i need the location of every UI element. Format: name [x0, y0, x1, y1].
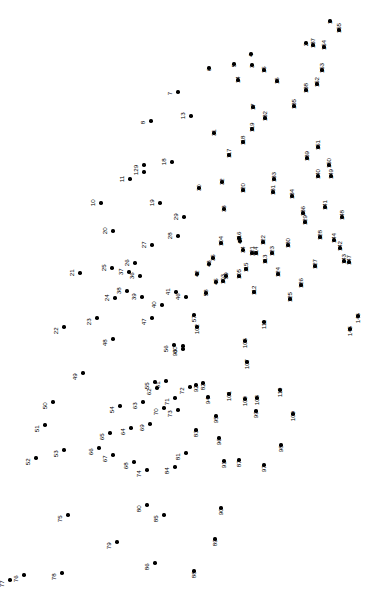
dot-number-label: 56 [163, 346, 169, 353]
dot-number-label: 63 [132, 403, 138, 410]
dot-number-label: 154 [321, 40, 327, 50]
puzzle-dot [138, 274, 141, 277]
dot-number-label: 67 [102, 456, 108, 463]
dot-number-label: 79 [106, 543, 112, 550]
dot-number-label: 86 [144, 564, 150, 571]
puzzle-dot [182, 215, 185, 218]
dot-number-label: 146 [355, 313, 361, 323]
dot-number-label: 142 [337, 241, 343, 251]
puzzle-dot [110, 266, 113, 269]
dot-number-label: 144 [331, 233, 337, 243]
dot-number-label: 131 [270, 185, 276, 195]
dot-number-label: 90 [218, 509, 224, 516]
puzzle-dot [62, 448, 65, 451]
dot-number-label: 126 [298, 278, 304, 288]
dot-number-label: 115 [243, 262, 249, 272]
connect-the-dots-canvas: 1234567891011121314151617181920212223242… [0, 0, 387, 613]
dot-number-label: 100 [242, 396, 248, 406]
puzzle-dot [78, 271, 81, 274]
dot-number-label: 69 [139, 425, 145, 432]
puzzle-dot [189, 114, 192, 117]
puzzle-dot [115, 540, 118, 543]
dot-number-label: 150 [326, 158, 332, 168]
dot-number-label: 147 [346, 255, 352, 265]
dot-number-label: 129 [302, 215, 308, 225]
dot-number-label: 1 [327, 21, 333, 24]
dot-number-label: 85 [153, 516, 159, 523]
dot-number-label: 141 [322, 200, 328, 210]
puzzle-dot [99, 201, 102, 204]
dot-number-label: 22 [53, 328, 59, 335]
dot-number-label: 95 [213, 417, 219, 424]
puzzle-dot [162, 513, 165, 516]
dot-number-label: 40 [151, 301, 157, 308]
dot-number-label: 37 [118, 268, 124, 275]
dot-number-label: 51 [34, 426, 40, 433]
puzzle-dot [176, 408, 179, 411]
dot-number-label: 107 [244, 359, 250, 369]
puzzle-dot [108, 431, 111, 434]
dot-number-label: 14 [235, 76, 241, 83]
puzzle-dot [164, 379, 167, 382]
dot-number-label: 138 [303, 83, 309, 93]
puzzle-dot [111, 229, 114, 232]
dot-number-label: 43 [206, 260, 212, 267]
puzzle-dot [111, 453, 114, 456]
puzzle-dot [62, 325, 65, 328]
puzzle-dot [184, 451, 187, 454]
dot-number-label: 76 [13, 576, 19, 583]
puzzle-dot [173, 396, 176, 399]
dot-number-label: 117 [226, 148, 232, 158]
dot-number-label: 92 [193, 386, 199, 393]
puzzle-dot [181, 347, 184, 350]
dot-number-label: 13 [180, 112, 186, 119]
puzzle-dot [142, 170, 145, 173]
puzzle-dot [8, 578, 11, 581]
puzzle-dot [97, 446, 100, 449]
puzzle-dot [145, 503, 148, 506]
dot-number-label: 11 [119, 176, 125, 182]
puzzle-dot [184, 295, 187, 298]
dot-number-label: 71 [164, 399, 170, 406]
dot-number-label: 82 [200, 384, 206, 391]
dot-number-label: 42 [194, 270, 200, 277]
dot-number-label: 81 [175, 454, 181, 461]
puzzle-dot [141, 400, 144, 403]
dot-number-label: 33 [221, 205, 227, 212]
dot-number-label: 93 [172, 350, 178, 357]
puzzle-dot [148, 422, 151, 425]
dot-number-label: 116 [236, 231, 242, 241]
dot-number-label: 19 [149, 199, 155, 206]
dot-number-label: 62 [146, 389, 152, 396]
dot-number-label: 4 [248, 54, 254, 57]
dot-number-label: 149 [328, 169, 334, 179]
dot-number-label: 65 [99, 434, 105, 441]
dot-number-label: 140 [315, 169, 321, 179]
dot-number-label: 106 [242, 338, 248, 348]
dot-number-label: 102 [194, 324, 200, 334]
dot-number-label: 119 [249, 122, 255, 132]
puzzle-dot [173, 465, 176, 468]
dot-number-label: 128 [317, 230, 323, 240]
dot-number-label: 38 [116, 287, 122, 294]
dot-number-label: 97 [261, 466, 267, 473]
dot-number-label: 75 [57, 516, 63, 523]
dot-number-label: 54 [109, 407, 115, 414]
dot-number-label: 98 [278, 446, 284, 453]
puzzle-dot [129, 426, 132, 429]
dot-number-label: 120 [240, 183, 246, 193]
dot-number-label: 7 [167, 92, 173, 95]
puzzle-dot [160, 303, 163, 306]
dot-number-label: 18 [161, 158, 167, 165]
puzzle-dot [128, 177, 131, 180]
dot-number-label: 49 [72, 374, 78, 381]
dot-number-label: 77 [0, 581, 5, 588]
puzzle-dot [34, 456, 37, 459]
dot-number-label: 133 [271, 172, 277, 182]
puzzle-dot [95, 316, 98, 319]
dot-number-label: 123 [269, 246, 275, 256]
puzzle-dot [66, 513, 69, 516]
dot-number-label: 91 [221, 462, 227, 469]
dot-number-label: 125 [287, 292, 293, 302]
dot-number-label: 153 [319, 63, 325, 73]
